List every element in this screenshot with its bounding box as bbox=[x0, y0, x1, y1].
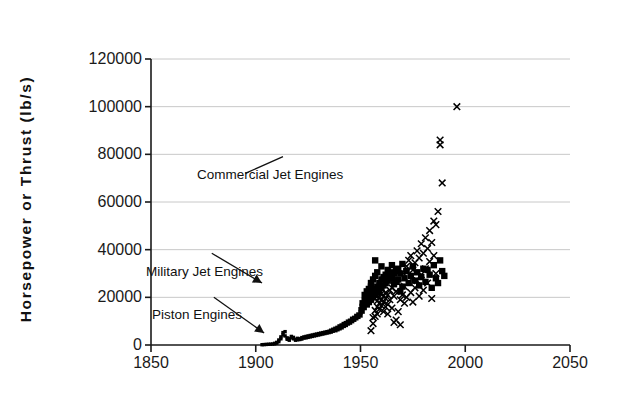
data-point-cross bbox=[424, 245, 431, 252]
data-point-cross bbox=[420, 287, 427, 294]
data-point-cross bbox=[389, 305, 396, 312]
annotation-arrowhead bbox=[254, 324, 264, 333]
data-point-square bbox=[378, 263, 384, 269]
series-piston-military bbox=[260, 257, 447, 346]
scatter-plot-canvas bbox=[0, 0, 619, 420]
annotation-military-jet-engines: Military Jet Engines bbox=[146, 265, 263, 279]
series-commercial-jet bbox=[368, 103, 460, 334]
data-point-square bbox=[283, 330, 286, 333]
data-point-cross bbox=[431, 252, 438, 259]
data-point-cross bbox=[422, 234, 429, 241]
data-point-cross bbox=[439, 180, 446, 187]
data-point-cross bbox=[370, 320, 377, 327]
data-point-cross bbox=[395, 308, 402, 315]
chart-figure: Horsepower or Thrust (lb/s) 020000400006… bbox=[0, 0, 619, 420]
data-point-cross bbox=[397, 321, 404, 328]
data-point-cross bbox=[416, 293, 423, 300]
data-point-cross bbox=[414, 248, 421, 255]
data-point-cross bbox=[426, 258, 433, 265]
data-point-cross bbox=[435, 208, 442, 215]
data-point-cross bbox=[401, 300, 408, 307]
data-point-cross bbox=[428, 239, 435, 246]
data-point-cross bbox=[428, 295, 435, 302]
data-point-square bbox=[426, 271, 432, 277]
data-point-square bbox=[372, 257, 378, 263]
data-point-square bbox=[389, 262, 395, 268]
data-point-square bbox=[435, 280, 441, 286]
data-point-square bbox=[441, 273, 447, 279]
data-point-square bbox=[374, 269, 380, 275]
data-point-cross bbox=[437, 137, 444, 144]
annotation-piston-engines: Piston Engines bbox=[152, 308, 242, 322]
data-point-square bbox=[437, 257, 443, 263]
data-point-cross bbox=[410, 299, 417, 306]
data-point-cross bbox=[426, 227, 433, 234]
annotation-commercial-jet-engines: Commercial Jet Engines bbox=[197, 168, 343, 182]
data-point-cross bbox=[418, 240, 425, 247]
data-point-cross bbox=[368, 327, 375, 334]
